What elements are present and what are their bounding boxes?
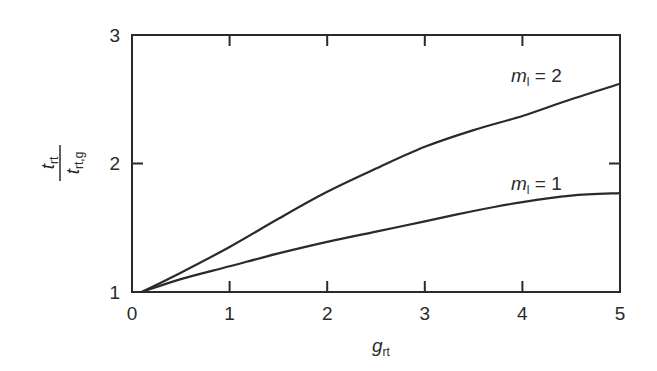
- svg-text:4: 4: [517, 303, 528, 324]
- svg-text:3: 3: [420, 303, 431, 324]
- svg-text:0: 0: [127, 303, 138, 324]
- x-axis-label: grt: [372, 335, 391, 359]
- svg-text:1: 1: [109, 282, 120, 303]
- y-tick-labels: 1 2 3: [109, 25, 120, 303]
- svg-text:trt,g: trt,g: [62, 152, 86, 175]
- svg-text:5: 5: [615, 303, 626, 324]
- curve-label-m-l-2: ml = 2: [511, 65, 562, 89]
- x-tick-labels: 0 1 2 3 4 5: [127, 303, 626, 324]
- svg-text:trt: trt: [37, 156, 61, 169]
- curve-m-l-1: [142, 193, 620, 292]
- svg-text:2: 2: [322, 303, 333, 324]
- y-axis-label: trt trt,g: [37, 145, 86, 181]
- curve-label-m-l-1: ml = 1: [511, 173, 562, 197]
- x-axis-ticks: [230, 35, 523, 292]
- svg-text:1: 1: [224, 303, 235, 324]
- chart-canvas: 0 1 2 3 4 5 1 2 3 grt trt trt,g ml = 2 m…: [0, 0, 657, 371]
- svg-text:2: 2: [109, 153, 120, 174]
- svg-text:3: 3: [109, 25, 120, 46]
